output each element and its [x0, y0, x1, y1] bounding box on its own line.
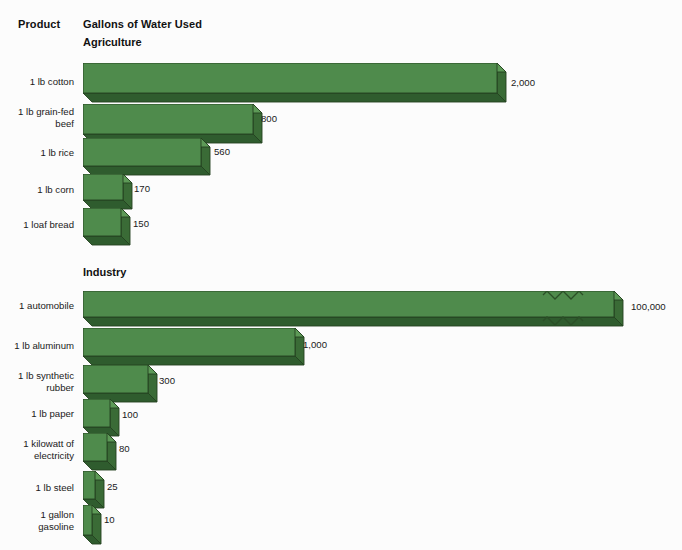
bar-row-label: 1 lb synthetic rubber [0, 370, 74, 393]
bar-row-label: 1 lb rice [0, 147, 74, 159]
bar-value-label: 800 [261, 113, 277, 124]
section-title-industry: Industry [83, 266, 126, 278]
bar-electricity [83, 433, 119, 473]
bar-value-label: 10 [104, 514, 115, 525]
bar-value-label: 560 [214, 146, 230, 157]
bar-row-label: 1 lb cotton [0, 76, 74, 88]
bar-row-label: 1 lb grain-fed beef [0, 106, 74, 129]
bar-row-label: 1 kilowatt of electricity [0, 438, 74, 461]
bar-row-label: 1 lb paper [0, 408, 74, 420]
bar-row-label: 1 gallon gasoline [0, 509, 74, 532]
bar-value-label: 100,000 [631, 301, 666, 312]
bar-automobile [83, 291, 626, 329]
water-usage-chart: Product Gallons of Water Used Agricultur… [0, 0, 682, 550]
bar-row-label: 1 lb steel [0, 482, 74, 494]
bar-row-label: 1 loaf bread [0, 219, 74, 231]
bar-value-label: 100 [122, 409, 138, 420]
bar-value-label: 170 [134, 183, 150, 194]
bar-value-label: 2,000 [511, 77, 535, 88]
bar-value-label: 150 [133, 218, 149, 229]
bar-rice [83, 138, 213, 178]
column-header-product: Product [18, 18, 60, 30]
bar-value-label: 25 [107, 481, 118, 492]
bar-value-label: 300 [159, 375, 175, 386]
bar-gasoline [83, 505, 104, 547]
bar-row-label: 1 automobile [0, 300, 74, 312]
bar-corn [83, 174, 135, 212]
bar-value-label: 80 [119, 443, 130, 454]
section-title-agriculture: Agriculture [83, 36, 142, 48]
bar-value-label: 1,000 [303, 339, 327, 350]
column-header-gallons: Gallons of Water Used [83, 18, 202, 30]
bar-row-label: 1 lb corn [0, 184, 74, 196]
bar-bread [83, 208, 133, 248]
bar-aluminum [83, 328, 307, 368]
bar-row-label: 1 lb aluminum [0, 340, 74, 352]
bar-cotton [83, 63, 509, 105]
